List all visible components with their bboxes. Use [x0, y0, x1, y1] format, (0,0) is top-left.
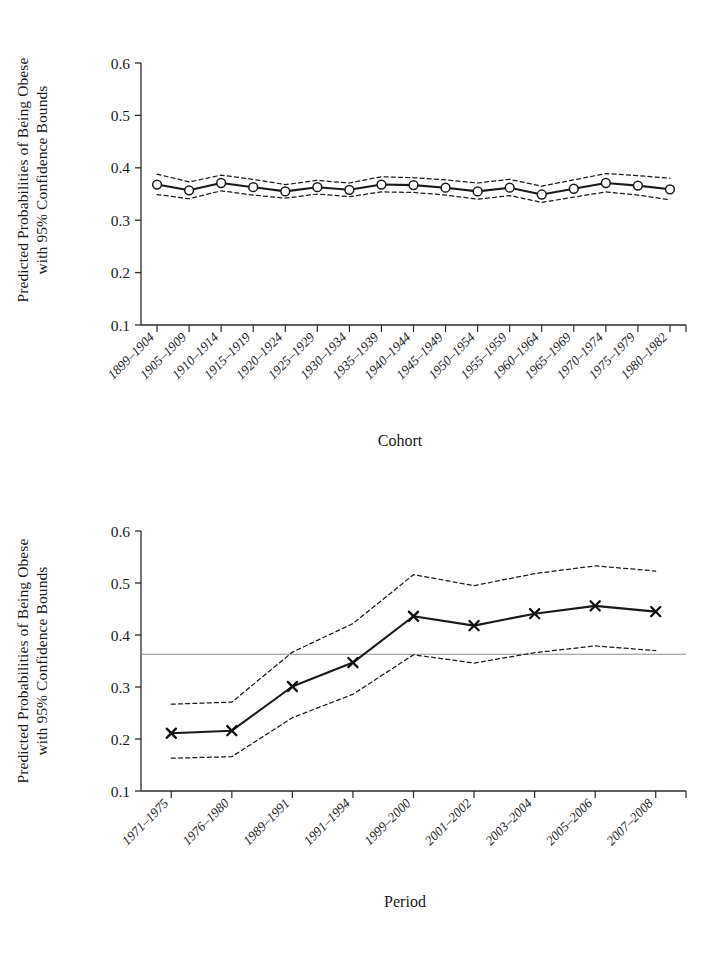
- x-tick-label: 1989–1991: [240, 796, 293, 849]
- data-point-marker: [505, 183, 514, 192]
- y-tick-label: 0.4: [111, 159, 131, 176]
- y-tick-label: 0.5: [111, 575, 131, 592]
- y-tick-label: 0.1: [111, 317, 130, 334]
- period-y-axis-title-line1: Predicted Probabilities of Being Obese: [14, 511, 33, 811]
- cohort-x-axis-title: Cohort: [300, 432, 500, 450]
- figure-container: Predicted Probabilities of Being Obese w…: [0, 0, 712, 957]
- data-point-marker: [249, 183, 258, 192]
- y-tick-label: 0.3: [111, 679, 131, 696]
- data-point-marker: [313, 183, 322, 192]
- x-tick-label-group: 2005–2006: [543, 795, 596, 848]
- x-tick-label: 1999–2000: [361, 795, 414, 848]
- period-y-axis-title-line2: with 95% Confidence Bounds: [33, 511, 52, 811]
- cohort-y-axis-title-line2: with 95% Confidence Bounds: [33, 30, 52, 330]
- x-tick-label-group: 2007–2008: [603, 795, 656, 848]
- data-point-marker: [537, 190, 546, 199]
- x-tick-label-group: 1991–1994: [300, 795, 353, 848]
- period-y-axis-title: Predicted Probabilities of Being Obese w…: [14, 511, 52, 811]
- data-point-marker: [377, 180, 386, 189]
- cohort-y-axis-title: Predicted Probabilities of Being Obese w…: [14, 30, 52, 330]
- x-tick-label: 2003–2004: [482, 795, 535, 848]
- data-point-marker: [409, 181, 418, 190]
- y-tick-label: 0.4: [111, 627, 131, 644]
- y-tick-label: 0.5: [111, 107, 131, 124]
- data-point-marker: [281, 187, 290, 196]
- confidence-bound-line: [171, 646, 655, 758]
- data-point-marker: [345, 185, 354, 194]
- cohort-y-axis-title-line1: Predicted Probabilities of Being Obese: [14, 30, 33, 330]
- confidence-bound-line: [171, 566, 655, 704]
- x-tick-label-group: 1999–2000: [361, 795, 414, 848]
- data-point-marker: [153, 180, 162, 189]
- x-tick-label-group: 1976–1980: [179, 795, 232, 848]
- y-tick-label: 0.2: [111, 264, 130, 281]
- period-x-axis-title: Period: [305, 893, 505, 911]
- data-point-marker: [601, 179, 610, 188]
- x-tick-label-group: 1971–1975: [119, 795, 172, 848]
- data-point-marker: [185, 186, 194, 195]
- period-plot: 0.10.20.30.40.50.61971–19751976–19801989…: [0, 478, 712, 957]
- data-line: [171, 606, 655, 733]
- y-tick-label: 0.3: [111, 212, 131, 229]
- x-tick-label: 2001–2002: [422, 795, 475, 848]
- cohort-plot: 0.10.20.30.40.50.61899–19041905–19091910…: [0, 0, 712, 480]
- data-point-marker: [441, 183, 450, 192]
- data-point-marker: [217, 179, 226, 188]
- y-tick-label: 0.6: [111, 55, 131, 72]
- cohort-panel: Predicted Probabilities of Being Obese w…: [0, 0, 712, 480]
- data-point-marker: [288, 682, 297, 691]
- x-tick-label: 1991–1994: [300, 795, 353, 848]
- y-tick-label: 0.6: [111, 523, 131, 540]
- confidence-bound-line: [157, 191, 670, 203]
- x-tick-label-group: 2001–2002: [422, 795, 475, 848]
- data-point-marker: [666, 185, 675, 194]
- data-point-marker: [569, 184, 578, 193]
- x-tick-label: 1971–1975: [119, 795, 172, 848]
- period-panel: Predicted Probabilities of Being Obese w…: [0, 478, 712, 957]
- x-tick-label: 2005–2006: [543, 795, 596, 848]
- x-tick-label: 2007–2008: [603, 795, 656, 848]
- y-tick-label: 0.1: [111, 783, 130, 800]
- data-point-marker: [634, 181, 643, 190]
- x-tick-label-group: 2003–2004: [482, 795, 535, 848]
- y-tick-label: 0.2: [111, 731, 130, 748]
- data-point-marker: [473, 187, 482, 196]
- x-tick-label-group: 1989–1991: [240, 796, 293, 849]
- x-tick-label: 1976–1980: [179, 795, 232, 848]
- data-point-marker: [348, 658, 357, 667]
